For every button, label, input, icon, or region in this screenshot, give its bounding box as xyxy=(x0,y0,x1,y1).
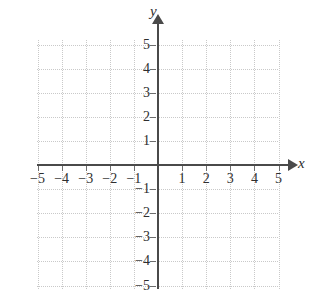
y-axis-tick xyxy=(150,141,156,142)
x-tick-label: 2 xyxy=(203,172,210,186)
y-axis-tick xyxy=(150,93,156,94)
y-tick-label: −4 xyxy=(116,254,150,268)
y-axis-tick xyxy=(150,237,156,238)
x-axis-label: x xyxy=(298,156,305,171)
coordinate-plane: −5−4−3−2−112345 54321−1−2−3−4−5 x y xyxy=(0,0,313,303)
y-axis-tick xyxy=(150,117,156,118)
y-axis-tick xyxy=(150,189,156,190)
y-tick-label: −3 xyxy=(116,230,150,244)
x-tick-label: −5 xyxy=(30,172,45,186)
x-tick-label: 3 xyxy=(227,172,234,186)
y-tick-label: −5 xyxy=(116,279,150,293)
y-axis-tick xyxy=(150,69,156,70)
x-tick-label: 1 xyxy=(179,172,186,186)
x-tick-label: 5 xyxy=(275,172,282,186)
x-axis-line xyxy=(37,164,291,166)
y-tick-label: 1 xyxy=(116,134,150,148)
x-axis-arrow-icon xyxy=(288,159,298,171)
y-axis-tick xyxy=(150,45,156,46)
y-tick-label: 3 xyxy=(116,86,150,100)
x-tick-label: −2 xyxy=(102,172,117,186)
y-axis-tick xyxy=(150,261,156,262)
x-tick-label: −4 xyxy=(54,172,69,186)
y-tick-label: 4 xyxy=(116,62,150,76)
y-tick-label: 2 xyxy=(116,110,150,124)
y-axis-label: y xyxy=(150,4,157,19)
x-tick-label: −3 xyxy=(78,172,93,186)
y-tick-label: 5 xyxy=(116,38,150,52)
y-tick-label: −1 xyxy=(116,182,150,196)
y-axis-tick xyxy=(150,286,156,287)
y-axis-tick xyxy=(150,213,156,214)
y-tick-label: −2 xyxy=(116,206,150,220)
y-axis-line xyxy=(157,22,159,289)
x-tick-label: 4 xyxy=(251,172,258,186)
